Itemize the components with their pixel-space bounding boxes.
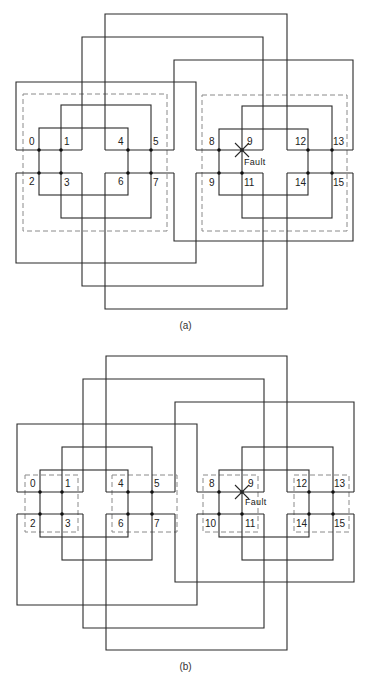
node-label-3: 3	[64, 178, 70, 188]
node-label-7: 7	[153, 178, 159, 188]
node-label-11: 11	[244, 178, 254, 188]
node-label-15: 15	[334, 519, 345, 529]
node-label-14: 14	[295, 178, 306, 188]
node-label-4: 4	[118, 137, 124, 147]
node-label-6: 6	[118, 177, 124, 187]
node-label-10: 9	[209, 178, 215, 188]
loop-bottom-3	[83, 514, 264, 628]
node-label-0: 0	[30, 479, 36, 489]
node-label-11: 11	[245, 519, 255, 529]
network-diagram-a	[0, 0, 371, 340]
fault-label: Fault	[245, 497, 267, 507]
outer-ring-left	[62, 447, 152, 560]
node-label-7: 7	[154, 519, 160, 529]
node-label-14: 14	[296, 519, 307, 529]
node-label-15: 15	[333, 178, 344, 188]
node-label-1: 1	[65, 479, 71, 489]
node-label-13: 13	[333, 137, 344, 147]
node-label-10: 10	[205, 519, 216, 529]
node-label-2: 2	[30, 519, 36, 529]
figure-a: 0 1 4 5 8 9 12 13 2 3 6 7 9 11 14 15 Fau…	[0, 0, 371, 340]
loop-top-4	[17, 424, 197, 492]
loop-top-4	[16, 82, 196, 150]
nodes-b	[38, 490, 335, 516]
dashed-group-right	[202, 95, 347, 231]
node-label-12: 12	[296, 479, 307, 489]
network-diagram-b	[0, 342, 371, 672]
node-label-3: 3	[65, 519, 71, 529]
node-label-2: 2	[29, 177, 35, 187]
figure-b: 0 1 4 5 8 9 12 13 2 3 6 7 10 11 14 15 Fa…	[0, 342, 371, 672]
fault-label: Fault	[244, 157, 266, 167]
node-label-8: 8	[209, 137, 215, 147]
figure-caption-b: (b)	[0, 661, 371, 672]
loop-top-2	[82, 37, 263, 150]
loop-bottom-3	[82, 173, 263, 286]
node-label-8: 8	[209, 479, 215, 489]
figure-caption-a: (a)	[0, 320, 371, 331]
nodes-a	[37, 148, 334, 175]
node-label-9: 9	[248, 479, 254, 489]
node-label-13: 13	[334, 479, 345, 489]
node-label-9: 9	[247, 137, 253, 147]
node-label-6: 6	[118, 519, 124, 529]
inner-ring-left	[40, 470, 128, 537]
node-label-1: 1	[64, 137, 70, 147]
outer-ring-left	[61, 105, 151, 218]
node-label-5: 5	[153, 137, 159, 147]
node-label-5: 5	[154, 479, 160, 489]
dashed-group-left	[23, 94, 167, 231]
node-label-4: 4	[118, 479, 124, 489]
inner-ring-left	[39, 128, 128, 195]
node-label-0: 0	[29, 137, 35, 147]
node-label-12: 12	[295, 137, 306, 147]
